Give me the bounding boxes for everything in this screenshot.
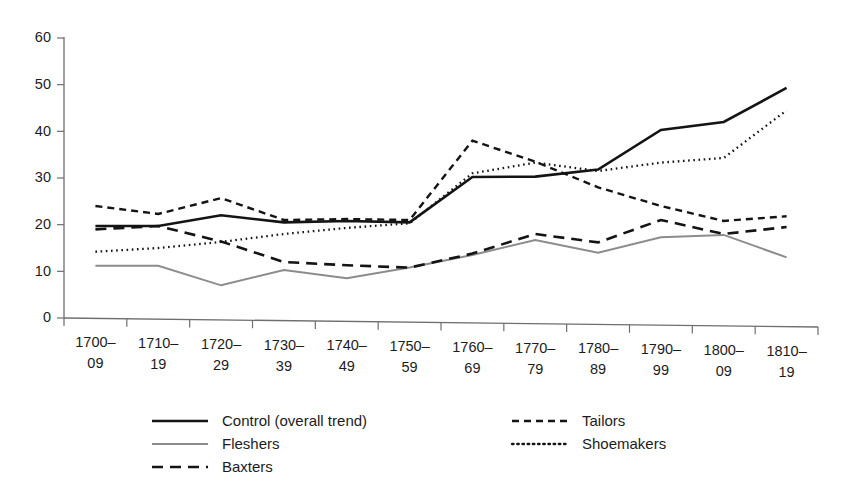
x-axis-label-line2: 49	[339, 358, 355, 374]
line-chart: 0102030405060 1700–091710–191720–291730–…	[0, 0, 854, 481]
x-axis-category-label: 1810–19	[766, 343, 807, 380]
x-axis-category-label: 1760–69	[452, 339, 493, 376]
x-axis-label-line1: 1760–	[452, 339, 493, 355]
x-axis-label-line2: 09	[716, 363, 732, 379]
x-axis-label-line2: 79	[527, 361, 543, 377]
x-axis: 1700–091710–191720–291730–391740–491750–…	[64, 318, 818, 380]
x-axis-label-line1: 1730–	[264, 337, 305, 353]
series-line-control-overall-trend	[95, 88, 786, 226]
x-axis-category-label: 1750–59	[389, 338, 430, 375]
x-axis-category-label: 1800–09	[704, 342, 745, 379]
x-axis-category-label: 1790–99	[641, 341, 682, 378]
x-axis-label-line2: 69	[464, 360, 480, 376]
chart-legend: Control (overall trend)FleshersBaxtersTa…	[152, 412, 666, 475]
y-axis-tick-label: 10	[35, 263, 51, 279]
legend-label: Control (overall trend)	[222, 412, 367, 429]
series-line-baxters	[95, 220, 786, 268]
x-axis-label-line1: 1810–	[766, 343, 807, 359]
x-axis-category-label: 1740–49	[327, 337, 368, 374]
x-axis-label-line2: 19	[779, 364, 795, 380]
y-axis-tick-label: 0	[43, 309, 51, 325]
legend-item: Control (overall trend)	[152, 412, 367, 429]
y-axis-tick-label: 20	[35, 216, 51, 232]
x-axis-label-line1: 1700–	[75, 334, 116, 350]
y-axis-tick-label: 60	[35, 29, 51, 45]
legend-label: Tailors	[582, 412, 625, 429]
x-axis-label-line1: 1720–	[201, 336, 242, 352]
x-axis-label-line1: 1710–	[138, 335, 179, 351]
x-axis-label-line2: 19	[150, 356, 166, 372]
y-axis-tick-label: 50	[35, 76, 51, 92]
x-axis-label-line1: 1740–	[327, 337, 368, 353]
legend-item: Shoemakers	[512, 435, 666, 452]
y-axis-tick-label: 30	[35, 169, 51, 185]
x-axis-label-line2: 09	[87, 355, 103, 371]
y-axis-tick-label: 40	[35, 123, 51, 139]
x-axis-label-line1: 1770–	[515, 340, 556, 356]
x-axis-label-line1: 1750–	[389, 338, 430, 354]
series-line-shoemakers	[95, 110, 786, 251]
x-axis-label-line1: 1800–	[704, 342, 745, 358]
x-axis-label-line2: 29	[213, 357, 229, 373]
x-axis-category-label: 1730–39	[264, 337, 305, 374]
legend-label: Shoemakers	[582, 435, 666, 452]
chart-canvas: 0102030405060 1700–091710–191720–291730–…	[0, 0, 854, 481]
series-line-tailors	[95, 141, 786, 221]
x-axis-category-label: 1770–79	[515, 340, 556, 377]
legend-item: Tailors	[512, 412, 625, 429]
legend-label: Fleshers	[222, 435, 280, 452]
y-axis: 0102030405060	[35, 29, 64, 325]
x-axis-category-label: 1780–89	[578, 340, 619, 377]
x-axis-label-line2: 39	[276, 358, 292, 374]
legend-item: Baxters	[152, 458, 273, 475]
x-axis-category-label: 1720–29	[201, 336, 242, 373]
x-axis-label-line2: 89	[590, 361, 606, 377]
x-axis-label-line1: 1790–	[641, 341, 682, 357]
x-axis-category-label: 1710–19	[138, 335, 179, 372]
x-axis-label-line1: 1780–	[578, 340, 619, 356]
series-layer	[95, 88, 786, 285]
x-axis-label-line2: 99	[653, 362, 669, 378]
x-axis-category-label: 1700–09	[75, 334, 116, 371]
legend-label: Baxters	[222, 458, 273, 475]
x-axis-label-line2: 59	[402, 359, 418, 375]
legend-item: Fleshers	[152, 435, 280, 452]
